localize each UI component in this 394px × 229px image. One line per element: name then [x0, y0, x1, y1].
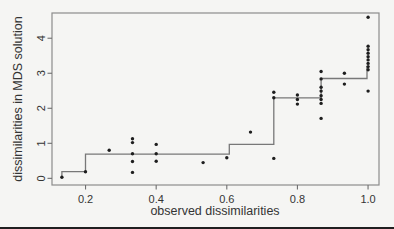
data-point — [272, 96, 275, 99]
data-point — [366, 65, 369, 68]
data-point — [319, 89, 322, 92]
data-point — [131, 137, 134, 140]
data-point — [319, 94, 322, 97]
data-point — [366, 52, 369, 55]
x-axis-label: observed dissimilarities — [150, 204, 279, 218]
axis-ticks: 0.20.40.60.81.001234 — [35, 35, 376, 205]
data-point — [296, 93, 299, 96]
data-point — [343, 82, 346, 85]
data-point — [131, 141, 134, 144]
data-point — [272, 91, 275, 94]
data-point — [366, 68, 369, 71]
data-point — [366, 89, 369, 92]
data-point — [366, 48, 369, 51]
data-point — [84, 170, 87, 173]
figure-page: 0.20.40.60.81.001234 observed dissimilar… — [0, 0, 394, 229]
y-axis-label: dissimilarities in MDS solution — [11, 16, 25, 181]
data-point — [319, 77, 322, 80]
data-point — [296, 98, 299, 101]
data-point — [319, 86, 322, 89]
x-tick-label: 1.0 — [360, 193, 375, 205]
data-point — [131, 152, 134, 155]
data-point — [319, 98, 322, 101]
data-point — [155, 160, 158, 163]
y-tick-label: 4 — [35, 35, 47, 41]
data-point — [366, 45, 369, 48]
x-tick-label: 0.2 — [78, 193, 93, 205]
page-bottom-rule — [0, 227, 394, 229]
data-point — [319, 117, 322, 120]
data-point — [155, 152, 158, 155]
shepard-diagram: 0.20.40.60.81.001234 observed dissimilar… — [0, 0, 394, 229]
data-point — [155, 143, 158, 146]
data-point — [249, 130, 252, 133]
y-tick-label: 3 — [35, 70, 47, 76]
data-point — [108, 149, 111, 152]
data-point — [319, 102, 322, 105]
y-tick-label: 2 — [35, 105, 47, 111]
data-point — [60, 176, 63, 179]
data-point — [366, 58, 369, 61]
data-point — [366, 62, 369, 65]
isotonic-fit-line — [62, 66, 367, 176]
data-point — [296, 102, 299, 105]
data-point — [131, 171, 134, 174]
data-point — [272, 157, 275, 160]
y-tick-label: 0 — [35, 175, 47, 181]
y-tick-label: 1 — [35, 140, 47, 146]
plot-area — [52, 13, 379, 185]
data-point — [319, 70, 322, 73]
data-point — [366, 55, 369, 58]
isotonic-fit-line-group — [62, 66, 367, 176]
data-point — [343, 72, 346, 75]
data-point — [201, 161, 204, 164]
data-point — [131, 160, 134, 163]
data-point — [225, 156, 228, 159]
x-tick-label: 0.8 — [290, 193, 305, 205]
data-point — [366, 16, 369, 19]
